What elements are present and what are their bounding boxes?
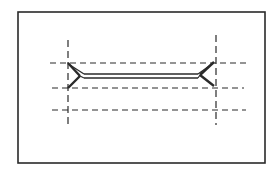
flared-bar-shape (68, 62, 214, 88)
left-flare-bottom-edge (68, 76, 80, 88)
right-flare-lower-transition (198, 75, 200, 78)
vertical-guide-lines (68, 35, 216, 125)
right-flare-bottom-edge (200, 75, 214, 86)
left-flare-top-edge (68, 63, 80, 76)
diagram-canvas (0, 0, 275, 171)
horizontal-guide-lines (50, 63, 246, 110)
right-flare-upper-transition (198, 64, 212, 74)
